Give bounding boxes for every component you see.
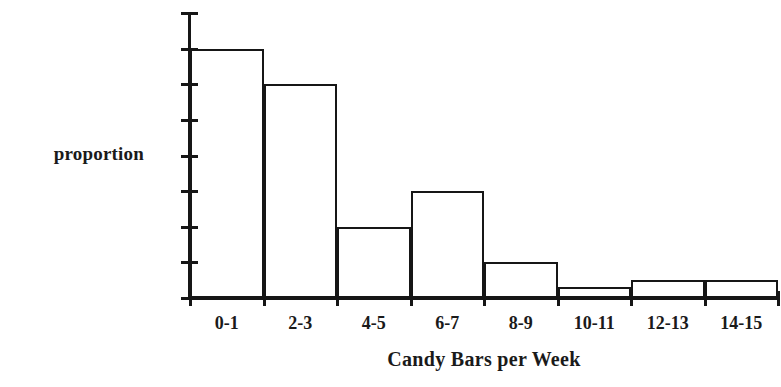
x-axis-category-label: 12-13 — [631, 313, 705, 334]
x-axis-category-label: 14-15 — [705, 313, 779, 334]
x-axis-category-label: 8-9 — [484, 313, 558, 334]
y-axis-tick — [181, 12, 198, 15]
histogram-bar — [558, 287, 632, 298]
histogram-bar — [631, 280, 705, 298]
x-axis-category-label: 10-11 — [558, 313, 632, 334]
x-axis-category-label: 0-1 — [190, 313, 264, 334]
plot-area: 00.050.10.150.20.250.30.350.4 0-12-34-56… — [190, 13, 778, 298]
histogram-bar — [411, 191, 485, 298]
y-axis-label: proportion — [4, 143, 144, 165]
histogram-figure: proportion 00.050.10.150.20.250.30.350.4… — [0, 0, 781, 387]
histogram-bar — [705, 280, 779, 298]
histogram-bar — [264, 84, 338, 298]
histogram-bar — [337, 227, 411, 298]
histogram-bar — [484, 262, 558, 298]
x-axis-category-label: 6-7 — [411, 313, 485, 334]
x-axis-category-label: 2-3 — [264, 313, 338, 334]
x-axis-category-label: 4-5 — [337, 313, 411, 334]
histogram-bar — [190, 49, 264, 298]
x-axis-title: Candy Bars per Week — [190, 348, 778, 371]
